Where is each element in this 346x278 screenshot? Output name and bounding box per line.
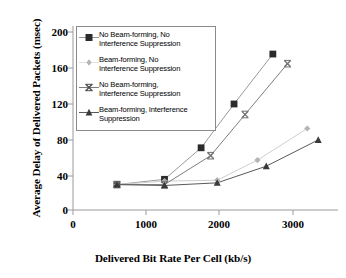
data-point	[263, 163, 270, 170]
legend-label-line2: Interference Suppression	[99, 89, 180, 98]
x-axis-ticks	[73, 210, 293, 215]
legend-item-no-beamforming-interference: No Beam-forming,Interference Suppression	[79, 80, 213, 104]
legend-label-line2: Suppression	[99, 114, 140, 123]
y-axis-ticks	[68, 32, 73, 210]
legend-item-beamforming-no-interference: Beam-forming, NoInterference Suppression	[79, 55, 213, 79]
data-point	[269, 51, 276, 58]
data-point	[207, 152, 214, 159]
legend-label-line2: Interference Suppression	[99, 39, 180, 48]
series-3	[113, 136, 321, 188]
legend-label-line1: Beam-forming, Interference	[99, 105, 188, 114]
chart-figure: Average Delay of Delivered Packets (msec…	[0, 0, 346, 278]
legend-item-beamforming-interference: Beam-forming, InterferenceSuppression	[79, 105, 213, 129]
legend-label: Beam-forming, NoInterference Suppression	[99, 55, 213, 74]
data-point	[254, 157, 260, 163]
cross-x-icon	[79, 81, 99, 94]
legend-label-line1: No Beam-forming, No	[99, 30, 170, 39]
data-point	[198, 144, 205, 151]
chart-legend: No Beam-forming, NoInterference Suppress…	[76, 26, 216, 131]
data-point	[242, 111, 249, 118]
filled-square-icon	[79, 31, 99, 44]
filled-triangle-icon	[79, 106, 99, 119]
legend-item-no-beamforming-no-interference: No Beam-forming, NoInterference Suppress…	[79, 30, 213, 54]
data-point	[304, 125, 310, 131]
data-point	[315, 136, 322, 143]
legend-label-line1: Beam-forming, No	[99, 55, 158, 64]
legend-label-line1: No Beam-forming,	[99, 80, 158, 89]
small-diamond-icon	[79, 56, 99, 69]
legend-label: No Beam-forming, NoInterference Suppress…	[99, 30, 213, 49]
legend-label-line2: Interference Suppression	[99, 64, 180, 73]
legend-label: Beam-forming, InterferenceSuppression	[99, 105, 213, 124]
legend-label: No Beam-forming,Interference Suppression	[99, 80, 213, 99]
data-point	[231, 101, 238, 108]
data-point	[284, 60, 291, 67]
